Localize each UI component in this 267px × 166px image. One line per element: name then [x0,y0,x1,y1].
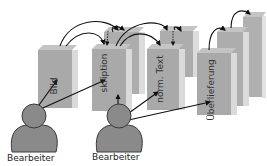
person-icon-bearbeiter-1 [11,104,57,152]
stage-label-norm-text: norm. Text [154,49,166,109]
actor-label-bearbeiter-2: Bearbeiter [92,152,139,162]
stage-label-transkription: skription [98,43,110,103]
actor-label-bearbeiter-1: Bearbeiter [7,153,54,163]
person-icon-bearbeiter-2 [96,104,142,152]
stage-norm-text-box [147,44,185,110]
stage-ueberlieferung-box [197,48,237,115]
stage-label-ueberlieferung: Überlieferung [205,55,217,125]
stage-label-bild: Bild [48,76,60,96]
diagram-canvas: Bild skription norm. Text Überlieferung … [0,0,267,166]
diagram-graphic [0,0,267,166]
